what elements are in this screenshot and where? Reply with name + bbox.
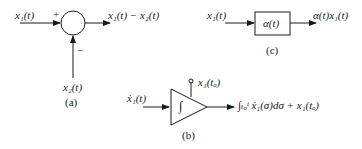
integral-symbol: ∫ bbox=[179, 99, 183, 112]
summer-output-label: x₁(t) − x₂(t) bbox=[108, 10, 159, 21]
minus-sign: − bbox=[77, 45, 83, 56]
summer-input-label: x₁(t) bbox=[15, 10, 34, 21]
block-diagram-canvas bbox=[0, 0, 362, 149]
integrator-output-label: ∫ₜₒᵗ ẋ₁(σ)dσ + x₁(tₒ) bbox=[238, 100, 319, 111]
integrator-block bbox=[143, 79, 234, 125]
caption-b: (b) bbox=[182, 130, 195, 141]
caption-c: (c) bbox=[266, 45, 278, 56]
integrator-input-label: ẋ₁(t) bbox=[127, 93, 146, 104]
summing-junction-circle bbox=[61, 11, 85, 35]
summer-second-input-label: x₂(t) bbox=[63, 82, 82, 93]
caption-a: (a) bbox=[65, 97, 77, 108]
multiplier-output-label: α(t)x₁(t) bbox=[313, 10, 348, 21]
plus-sign: + bbox=[53, 9, 59, 20]
summer-block bbox=[20, 11, 110, 78]
multiplier-input-label: x₁(t) bbox=[207, 10, 226, 21]
initial-condition-label: x₁(tₒ) bbox=[198, 77, 220, 88]
integrator-triangle bbox=[171, 89, 207, 125]
multiplier-block-label: α(t) bbox=[263, 18, 279, 29]
initial-condition-terminal-icon bbox=[189, 79, 193, 83]
